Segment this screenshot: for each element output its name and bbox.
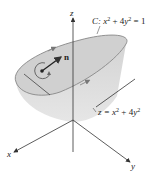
y-axis [73, 120, 130, 162]
curve-label-pointer [97, 26, 100, 34]
x-axis [14, 120, 73, 152]
surface-label: z = x2 + 4y2 [97, 107, 140, 117]
x-axis-label: x [6, 149, 11, 159]
paraboloid-diagram: z x y n C: x2 + 4y2 = 1 z = x2 + 4y2 [0, 0, 167, 181]
normal-label: n [64, 52, 69, 62]
curve-label: C: x2 + 4y2 = 1 [92, 16, 145, 26]
y-axis-label: y [130, 161, 135, 171]
z-axis-label: z [69, 8, 74, 18]
